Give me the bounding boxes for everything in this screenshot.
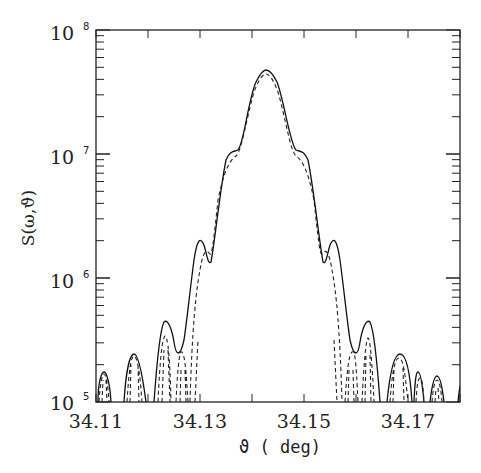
series-solid-line [98,70,461,402]
svg-text:6: 6 [83,269,89,280]
y-tick-label-1e7: 10 7 [50,145,89,168]
chart-canvas: 10 8 10 7 10 6 10 5 34.11 34.13 34.15 34… [0,0,481,473]
y-tick-label-1e8: 10 8 [50,21,89,44]
x-tick-label: 34.15 [277,410,331,432]
x-tick-label: 34.17 [381,410,435,432]
svg-text:5: 5 [83,391,89,402]
svg-text:10: 10 [50,270,74,292]
svg-text:10: 10 [50,22,74,44]
x-tick-label: 34.13 [173,410,227,432]
svg-text:7: 7 [83,145,89,156]
series-dashed-line [99,74,442,402]
x-axis-title: ϑ ( deg) [239,437,321,457]
y-tick-label-1e6: 10 6 [50,269,89,292]
y-axis-title: S(ω,ϑ) [18,190,38,246]
svg-text:10: 10 [50,146,74,168]
x-tick-label: 34.11 [69,410,123,432]
svg-text:8: 8 [83,21,89,32]
